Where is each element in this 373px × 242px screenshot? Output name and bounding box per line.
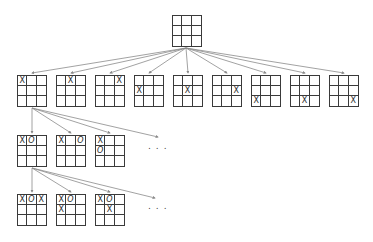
tree-edge-arrow bbox=[32, 108, 110, 133]
tictactoe-board-b1-3: X bbox=[95, 75, 125, 107]
x-mark: X bbox=[57, 195, 66, 205]
empty-cell bbox=[135, 76, 144, 86]
empty-cell bbox=[96, 86, 105, 96]
tree-edge-arrow bbox=[32, 108, 158, 137]
empty-cell bbox=[115, 136, 124, 146]
empty-cell bbox=[330, 76, 339, 86]
empty-cell bbox=[37, 96, 46, 106]
empty-cell bbox=[37, 86, 46, 96]
empty-cell bbox=[300, 86, 309, 96]
o-mark: O bbox=[66, 195, 75, 205]
empty-cell bbox=[192, 26, 201, 36]
empty-cell bbox=[27, 205, 36, 215]
x-mark: X bbox=[37, 195, 46, 205]
empty-cell bbox=[192, 16, 201, 26]
tictactoe-board-b1-7: X bbox=[251, 75, 281, 107]
empty-cell bbox=[115, 195, 124, 205]
empty-cell bbox=[105, 136, 114, 146]
empty-cell bbox=[291, 76, 300, 86]
empty-cell bbox=[339, 96, 348, 106]
empty-cell bbox=[173, 36, 182, 46]
empty-cell bbox=[339, 76, 348, 86]
empty-cell bbox=[18, 96, 27, 106]
empty-cell bbox=[115, 96, 124, 106]
x-mark: X bbox=[183, 86, 192, 96]
empty-cell bbox=[271, 86, 280, 96]
tictactoe-board-b2-2: XO bbox=[56, 135, 86, 167]
empty-cell bbox=[18, 205, 27, 215]
tictactoe-board-b2-1: XO bbox=[17, 135, 47, 167]
empty-cell bbox=[300, 76, 309, 86]
empty-cell bbox=[144, 96, 153, 106]
empty-cell bbox=[349, 76, 358, 86]
empty-cell bbox=[232, 96, 241, 106]
tree-edge-arrow bbox=[186, 48, 227, 73]
empty-cell bbox=[174, 86, 183, 96]
empty-cell bbox=[261, 86, 270, 96]
empty-cell bbox=[173, 16, 182, 26]
empty-cell bbox=[96, 156, 105, 166]
tictactoe-board-b1-9: X bbox=[329, 75, 359, 107]
empty-cell bbox=[57, 146, 66, 156]
empty-cell bbox=[96, 205, 105, 215]
x-mark: X bbox=[232, 86, 241, 96]
empty-cell bbox=[183, 96, 192, 106]
empty-cell bbox=[330, 86, 339, 96]
empty-cell bbox=[37, 156, 46, 166]
x-mark: X bbox=[349, 96, 358, 106]
empty-cell bbox=[57, 86, 66, 96]
empty-cell bbox=[115, 205, 124, 215]
empty-cell bbox=[18, 146, 27, 156]
empty-cell bbox=[96, 215, 105, 225]
x-mark: X bbox=[57, 205, 66, 215]
empty-cell bbox=[27, 86, 36, 96]
x-mark: X bbox=[135, 86, 144, 96]
empty-cell bbox=[182, 36, 191, 46]
x-mark: X bbox=[66, 76, 75, 86]
empty-cell bbox=[154, 76, 163, 86]
tictactoe-board-b1-6: X bbox=[212, 75, 242, 107]
empty-cell bbox=[37, 136, 46, 146]
empty-cell bbox=[291, 86, 300, 96]
empty-cell bbox=[76, 156, 85, 166]
tree-edge-arrow bbox=[32, 48, 186, 73]
x-mark: X bbox=[57, 136, 66, 146]
tree-edge-arrow bbox=[186, 48, 188, 73]
x-mark: X bbox=[96, 195, 105, 205]
tictactoe-board-b1-2: X bbox=[56, 75, 86, 107]
empty-cell bbox=[144, 76, 153, 86]
empty-cell bbox=[37, 146, 46, 156]
empty-cell bbox=[173, 26, 182, 36]
tictactoe-board-b3-2: XOX bbox=[56, 194, 86, 226]
tree-edge-arrow bbox=[32, 168, 110, 192]
tree-edge-arrow bbox=[71, 48, 186, 73]
o-mark: O bbox=[105, 195, 114, 205]
tree-edge-arrow bbox=[110, 48, 186, 73]
empty-cell bbox=[76, 195, 85, 205]
tictactoe-board-root bbox=[172, 15, 202, 47]
empty-cell bbox=[27, 96, 36, 106]
tree-edge-arrow bbox=[186, 48, 305, 73]
empty-cell bbox=[96, 96, 105, 106]
o-mark: O bbox=[27, 136, 36, 146]
o-mark: O bbox=[76, 136, 85, 146]
empty-cell bbox=[76, 86, 85, 96]
tictactoe-board-b3-1: XOX bbox=[17, 194, 47, 226]
empty-cell bbox=[261, 76, 270, 86]
tree-edge-arrow bbox=[186, 48, 266, 73]
empty-cell bbox=[66, 156, 75, 166]
empty-cell bbox=[105, 96, 114, 106]
x-mark: X bbox=[115, 76, 124, 86]
empty-cell bbox=[105, 146, 114, 156]
x-mark: X bbox=[18, 76, 27, 86]
empty-cell bbox=[57, 215, 66, 225]
tictactoe-board-b1-8: X bbox=[290, 75, 320, 107]
empty-cell bbox=[271, 76, 280, 86]
empty-cell bbox=[27, 146, 36, 156]
empty-cell bbox=[105, 156, 114, 166]
empty-cell bbox=[66, 215, 75, 225]
empty-cell bbox=[182, 16, 191, 26]
empty-cell bbox=[57, 96, 66, 106]
x-mark: X bbox=[96, 136, 105, 146]
empty-cell bbox=[252, 86, 261, 96]
